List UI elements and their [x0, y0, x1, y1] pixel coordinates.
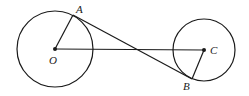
label-o: O	[49, 54, 57, 66]
radius-oa	[55, 15, 73, 49]
segment-oc	[55, 49, 204, 50]
label-b: B	[183, 80, 190, 92]
label-a: A	[75, 3, 83, 15]
point-c	[202, 48, 206, 52]
tangent-ab	[73, 15, 192, 79]
geometry-diagram: A O C B	[0, 0, 249, 96]
label-c: C	[210, 44, 218, 56]
diagram-svg: A O C B	[0, 0, 249, 96]
point-o	[53, 47, 57, 51]
radius-cb	[192, 50, 204, 79]
